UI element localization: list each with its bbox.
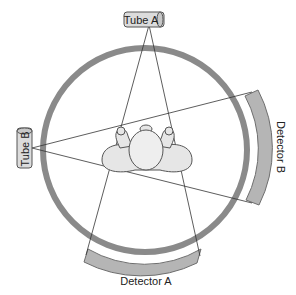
ct-diagram: Tube A Tube B Detector A Detector B: [0, 0, 296, 295]
tube-b: Tube B: [17, 128, 32, 168]
tube-b-label: Tube B: [19, 131, 31, 166]
tube-a: Tube A: [124, 12, 164, 27]
detector-a-label: Detector A: [120, 275, 172, 287]
tube-a-label: Tube A: [124, 14, 159, 26]
patient-top-view: [102, 125, 192, 172]
detector-b-label: Detector B: [275, 121, 287, 173]
